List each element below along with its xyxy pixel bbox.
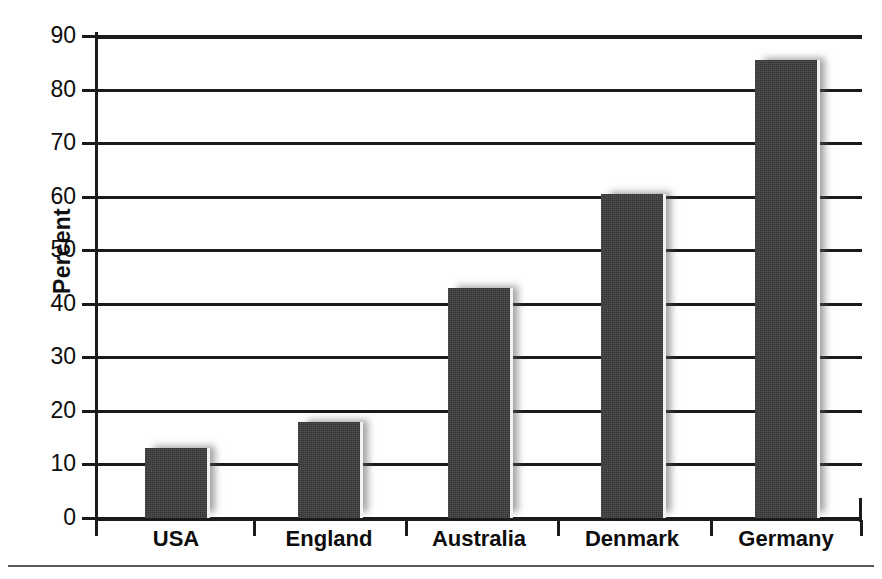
y-axis-tick-mark [82,303,95,306]
y-axis-tick-label: 30 [10,345,76,368]
y-axis-tick-mark [82,196,95,199]
bar [755,60,820,518]
gridline [95,142,862,145]
y-axis-tick-mark [82,89,95,92]
bar [601,194,666,518]
y-axis-tick-label: 60 [10,185,76,208]
y-axis-tick-label: 10 [10,452,76,475]
y-axis-tick-mark [82,410,95,413]
y-axis-tick-label: 20 [10,399,76,422]
bar-chart-figure: Percent 0102030405060708090 USAEnglandAu… [0,0,882,579]
x-axis-category-label: Denmark [542,527,722,551]
bottom-rule [8,565,874,567]
y-axis-tick-mark [82,35,95,38]
gridline [95,249,862,252]
y-axis-tick-label: 50 [10,238,76,261]
y-axis-tick-label: 40 [10,292,76,315]
bar [298,422,363,518]
plot-area: 0102030405060708090 [95,36,862,518]
y-axis-tick-label: 80 [10,78,76,101]
bar [448,288,513,518]
gridline [95,196,862,199]
gridline [95,89,862,92]
y-axis-tick-mark [82,249,95,252]
y-axis-tick-mark [82,142,95,145]
y-axis-tick-label: 0 [10,506,76,529]
y-axis-tick-label: 90 [10,24,76,47]
y-axis-tick-mark [82,463,95,466]
y-axis-tick-mark [82,517,95,520]
gridline [95,35,862,39]
y-axis-tick-label: 70 [10,131,76,154]
y-axis-tick-mark [82,356,95,359]
bar [145,448,210,518]
x-axis-category-label: Germany [696,527,876,551]
